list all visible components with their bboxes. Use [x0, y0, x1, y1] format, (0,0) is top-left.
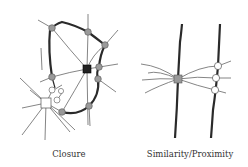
- similarity-diagram: [141, 24, 231, 138]
- node: [49, 87, 55, 93]
- node: [214, 62, 221, 69]
- node: [211, 86, 218, 93]
- node: [95, 76, 102, 83]
- similarity-caption: Similarity/Proximity: [147, 149, 233, 159]
- closure-caption: Closure: [52, 149, 85, 159]
- gestalt-diagram: [0, 0, 248, 167]
- node: [59, 109, 66, 116]
- node: [96, 64, 103, 71]
- node: [212, 74, 219, 81]
- node: [85, 29, 92, 36]
- node: [86, 103, 93, 110]
- node: [54, 97, 60, 103]
- node: [102, 42, 109, 49]
- gray-square-node: [174, 75, 182, 83]
- node: [49, 25, 56, 32]
- node: [58, 88, 63, 93]
- closure-diagram: [20, 14, 118, 140]
- node: [49, 74, 56, 81]
- white-square-node: [41, 98, 51, 108]
- dark-square-node: [83, 65, 91, 73]
